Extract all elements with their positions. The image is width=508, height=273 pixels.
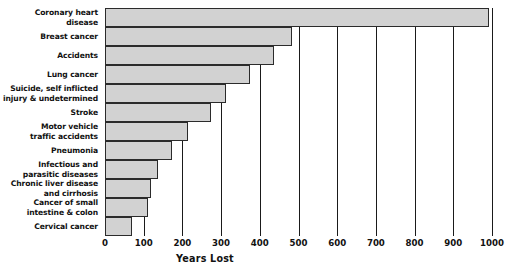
- category-label: Coronary heart disease: [35, 8, 98, 27]
- x-tick-label: 300: [212, 238, 230, 248]
- x-axis-title: Years Lost: [0, 253, 508, 264]
- x-tick-label: 1000: [480, 238, 504, 248]
- gridline-1000: [492, 8, 493, 236]
- x-tick-label: 700: [367, 238, 385, 248]
- bar: [105, 122, 188, 141]
- bar-row: [105, 65, 492, 84]
- bar-chart: Coronary heart diseaseBreast cancerAccid…: [0, 0, 508, 273]
- bar-row: [105, 217, 492, 236]
- category-label: Lung cancer: [47, 70, 98, 79]
- x-tick-label: 0: [102, 238, 108, 248]
- category-label: Cancer of small intestine & colon: [27, 198, 98, 217]
- bar-row: [105, 8, 492, 27]
- bar-row: [105, 198, 492, 217]
- category-axis-labels: Coronary heart diseaseBreast cancerAccid…: [0, 8, 102, 236]
- bar: [105, 46, 274, 65]
- bars: [105, 8, 492, 236]
- x-tick-label: 900: [444, 238, 462, 248]
- x-axis-title-text: Years Lost: [176, 253, 234, 264]
- category-label: Motor vehicle traffic accidents: [30, 122, 98, 141]
- bar: [105, 179, 151, 198]
- category-label: Breast cancer: [40, 32, 98, 41]
- category-label: Stroke: [71, 108, 98, 117]
- x-tick-label: 800: [406, 238, 424, 248]
- x-tick-label: 500: [290, 238, 308, 248]
- bar: [105, 217, 132, 236]
- bar-row: [105, 46, 492, 65]
- plot-area: [105, 8, 492, 236]
- category-label: Cervical cancer: [34, 222, 98, 231]
- bar: [105, 8, 489, 27]
- x-axis-tick-labels: 01002003004005006007008009001000: [0, 238, 508, 252]
- bar: [105, 65, 250, 84]
- bar: [105, 27, 292, 46]
- category-label: Pneumonia: [51, 146, 98, 155]
- bar-row: [105, 179, 492, 198]
- x-tick-label: 200: [173, 238, 191, 248]
- bar-row: [105, 27, 492, 46]
- category-label: Accidents: [57, 51, 98, 60]
- category-label: Infectious and parasitic diseases: [23, 160, 98, 179]
- x-tick-label: 600: [328, 238, 346, 248]
- bar: [105, 198, 148, 217]
- bar: [105, 141, 172, 160]
- bar-row: [105, 141, 492, 160]
- category-label: Chronic liver disease and cirrhosis: [11, 179, 98, 198]
- bar-row: [105, 160, 492, 179]
- x-tick-label: 100: [135, 238, 153, 248]
- bar: [105, 84, 226, 103]
- x-tick-label: 400: [251, 238, 269, 248]
- bar: [105, 160, 158, 179]
- bar-row: [105, 122, 492, 141]
- bar-row: [105, 84, 492, 103]
- bar: [105, 103, 211, 122]
- category-label: Suicide, self inflicted injury & undeter…: [3, 84, 98, 103]
- bar-row: [105, 103, 492, 122]
